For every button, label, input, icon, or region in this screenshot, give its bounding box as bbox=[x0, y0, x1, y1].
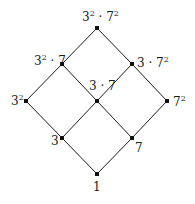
edge-147-441 bbox=[97, 28, 132, 64]
label-part: 3 bbox=[34, 54, 42, 68]
edge-7-49 bbox=[132, 101, 167, 138]
label-part: · 7 bbox=[47, 54, 66, 68]
divisor-lattice-diagram: 32 · 72 32 · 7 3 · 72 3 · 7 32 72 3 7 1 bbox=[0, 0, 195, 204]
label-3sq: 32 bbox=[11, 95, 24, 107]
label-exponent: 2 bbox=[181, 94, 186, 103]
label-3sq-7sq: 32 · 72 bbox=[82, 11, 119, 23]
label-exponent: 2 bbox=[114, 9, 119, 18]
edge-1-3 bbox=[62, 138, 97, 174]
node-21 bbox=[95, 99, 99, 103]
label-part: 3 · 7 bbox=[137, 56, 164, 70]
edge-3-21 bbox=[62, 101, 97, 138]
label-exponent: 2 bbox=[164, 55, 169, 64]
edge-7-21 bbox=[97, 101, 132, 138]
node-7 bbox=[130, 136, 134, 140]
label-part: 3 bbox=[11, 94, 19, 108]
node-1 bbox=[95, 172, 99, 176]
node-9 bbox=[24, 99, 28, 103]
label-part: 3 bbox=[82, 10, 90, 24]
edge-63-441 bbox=[62, 28, 97, 64]
label-1: 1 bbox=[93, 181, 101, 193]
label-3-7: 3 · 7 bbox=[89, 80, 116, 92]
lattice-nodes bbox=[24, 26, 169, 176]
label-3-7sq: 3 · 72 bbox=[137, 57, 169, 69]
label-3: 3 bbox=[51, 135, 59, 147]
node-3 bbox=[60, 136, 64, 140]
label-part: · 7 bbox=[95, 10, 114, 24]
edge-1-7 bbox=[97, 138, 132, 174]
edge-9-63 bbox=[26, 64, 62, 101]
lattice-graphic bbox=[0, 0, 195, 204]
node-147 bbox=[130, 62, 134, 66]
edge-3-9 bbox=[26, 101, 62, 138]
node-441 bbox=[95, 26, 99, 30]
node-49 bbox=[165, 99, 169, 103]
label-7: 7 bbox=[135, 142, 143, 154]
label-7sq: 72 bbox=[173, 96, 186, 108]
label-3sq-7: 32 · 7 bbox=[34, 55, 66, 67]
label-exponent: 2 bbox=[19, 93, 24, 102]
label-part: 7 bbox=[173, 95, 181, 109]
